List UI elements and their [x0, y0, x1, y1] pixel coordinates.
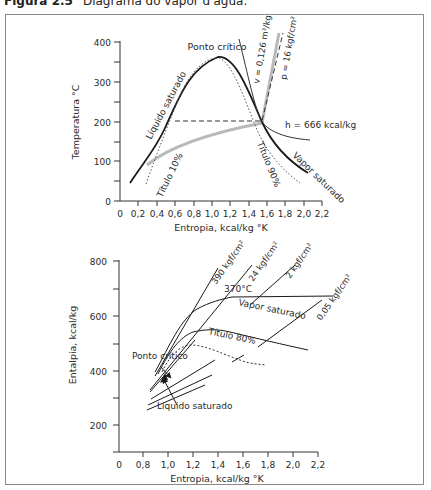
hs-critical-point-label: Ponto crítico: [132, 351, 188, 361]
hs-xlabel: Entropia, kcal/kg °K: [170, 473, 264, 484]
ts-xtick: 2,2: [315, 209, 329, 219]
ts-xtick: 1,4: [242, 209, 257, 219]
hs-xtick: 1,4: [211, 460, 226, 470]
ts-chart: 0 100 200 300 400 0 0,2 0,4 0,6 0,8 1,0 …: [70, 14, 356, 233]
hs-quality80-label: Título 80%: [207, 326, 258, 346]
hs-critical-marker: [160, 373, 168, 383]
hs-saturated-vapor-label: Vapor saturado: [238, 297, 308, 321]
ts-xtick: 0: [117, 209, 123, 219]
charts-canvas: 0 100 200 300 400 0 0,2 0,4 0,6 0,8 1,0 …: [0, 0, 431, 490]
hs-xtick: 1,0: [161, 460, 176, 470]
hs-xtick: 1,8: [261, 460, 276, 470]
hs-ytick: 600: [90, 312, 107, 322]
hs-isobar-2-label: 2 kgf/cm²: [283, 241, 315, 280]
ts-ytick: 100: [94, 157, 111, 167]
hs-xtick: 0,8: [136, 460, 151, 470]
ts-xtick: 0,2: [131, 209, 145, 219]
hs-370c-label: 370°C: [224, 284, 252, 294]
ts-critical-point-label: Ponto crítico: [188, 41, 247, 52]
ts-ylabel: Temperatura °C: [70, 84, 81, 160]
ts-enthalpy-label: h = 666 kcal/kg: [285, 120, 356, 130]
hs-ytick: 800: [90, 257, 107, 267]
hs-chart: 200 400 600 800 0 0,8 1,0 1,2 1,4 1,6 1,…: [67, 238, 354, 484]
hs-xtick: 1,2: [186, 460, 200, 470]
hs-xtick-labels: 0 0,8 1,0 1,2 1,4 1,6 1,8 2,0 2,2: [116, 460, 325, 470]
hs-ytick-labels: 200 400 600 800: [90, 257, 107, 431]
hs-isobar-390-label: 390 kgf/cm²: [209, 238, 247, 286]
ts-volume-label: v = 0,126 m³/kg: [251, 14, 273, 84]
ts-xtick: 1,8: [278, 209, 293, 219]
hs-isobar-24-label: 24 kgf/cm²: [246, 240, 281, 283]
ts-xtick: 1,2: [223, 209, 237, 219]
hs-xtick: 1,6: [236, 460, 251, 470]
ts-ytick: 400: [94, 38, 111, 48]
ts-xtick: 0,4: [150, 209, 165, 219]
ts-saturated-vapor-label: Vapor saturado: [291, 150, 348, 205]
ts-ytick: 200: [94, 118, 111, 128]
hs-ytick: 200: [90, 421, 107, 431]
ts-ytick: 0: [105, 197, 111, 207]
ts-xtick: 0,8: [187, 209, 202, 219]
hs-xtick: 2,0: [286, 460, 301, 470]
hs-xtick: 2,2: [311, 460, 325, 470]
ts-xtick: 0,6: [168, 209, 183, 219]
hs-ytick: 400: [90, 367, 107, 377]
hs-ylabel: Entalpia, kcal/kg: [67, 306, 78, 385]
hs-saturated-liquid-label: Líquido saturado: [157, 401, 233, 411]
hs-xtick: 0: [116, 460, 122, 470]
ts-pressure-label: p = 16 kgf/cm²: [278, 16, 299, 81]
ts-xtick: 2,0: [297, 209, 312, 219]
ts-ytick-labels: 0 100 200 300 400: [94, 38, 111, 207]
ts-xtick: 1,6: [260, 209, 275, 219]
ts-xlabel: Entropia, kcal/kg °K: [174, 222, 268, 233]
ts-xtick: 1,0: [205, 209, 220, 219]
hs-isobar-005-label: 0,05 kgf/cm²: [314, 272, 353, 322]
ts-xtick-labels: 0 0,2 0,4 0,6 0,8 1,0 1,2 1,4 1,6 1,8 2,…: [117, 209, 329, 219]
ts-ytick: 300: [94, 78, 111, 88]
